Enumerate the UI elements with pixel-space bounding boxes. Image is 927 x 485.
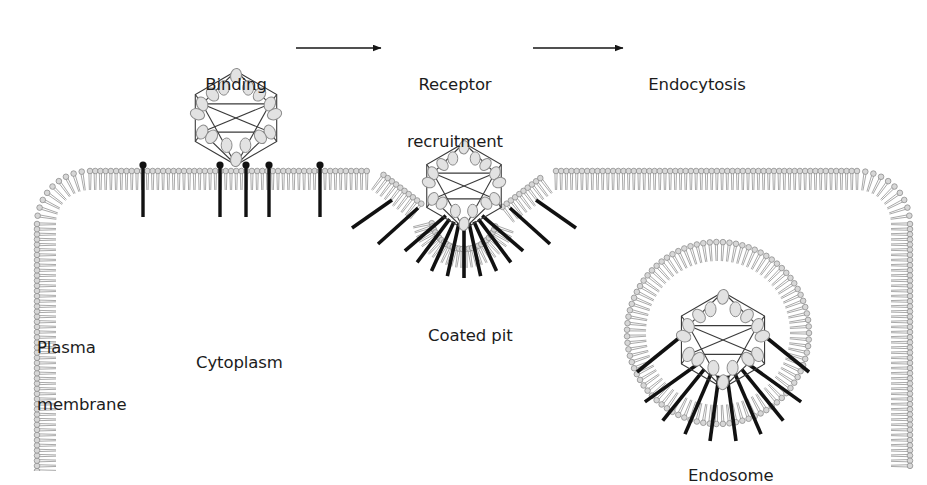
lipid-molecule — [891, 401, 913, 407]
lipid-molecule — [647, 168, 653, 190]
lipid-molecule — [286, 168, 292, 190]
receptor — [378, 208, 418, 244]
lipid-molecule — [890, 213, 912, 219]
lipid-molecule — [891, 334, 913, 340]
lipid-molecule — [625, 340, 647, 346]
lipid-molecule — [233, 168, 239, 190]
lipid-molecule — [891, 252, 913, 258]
lipid-molecule — [322, 168, 328, 190]
lipid-molecule — [761, 168, 767, 190]
lipid-molecule — [98, 168, 104, 190]
flow-step-binding-label: Binding — [205, 75, 267, 94]
lipid-molecule — [615, 168, 621, 190]
lipid-molecule — [673, 168, 679, 190]
lipid-molecule — [771, 168, 777, 190]
lipid-molecule — [839, 168, 845, 190]
lipid-molecule — [766, 168, 772, 190]
lipid-molecule — [333, 168, 339, 190]
lipid-molecule — [891, 319, 913, 325]
lipid-molecule — [750, 168, 756, 190]
lipid-molecule — [558, 168, 564, 190]
flow-step-endocytosis: Endocytosis — [648, 37, 746, 113]
lipid-molecule — [34, 252, 56, 258]
lipid-molecule — [327, 168, 333, 190]
lipid-molecule — [202, 168, 208, 190]
lipid-molecule — [254, 168, 260, 190]
lipid-molecule — [807, 168, 813, 190]
lipid-molecule — [34, 242, 56, 248]
lipid-molecule — [34, 262, 56, 268]
lipid-molecule — [625, 320, 647, 326]
lipid-molecule — [792, 168, 798, 190]
lipid-molecule — [343, 168, 349, 190]
lipid-molecule — [751, 250, 763, 270]
flow-step-receptor-recruitment-label2: recruitment — [407, 132, 503, 151]
label-coated-pit: Coated pit — [428, 288, 513, 364]
lipid-molecule — [891, 350, 913, 356]
flow-step-receptor-recruitment: Receptor recruitment — [407, 37, 503, 170]
lipid-molecule — [867, 171, 876, 192]
lipid-molecule — [891, 458, 913, 464]
receptor — [352, 200, 392, 228]
lipid-molecule — [34, 237, 56, 243]
lipid-molecule — [186, 168, 192, 190]
lipid-molecule — [626, 168, 632, 190]
lipid-molecule — [891, 257, 913, 263]
lipid-molecule — [354, 168, 360, 190]
lipid-molecule — [789, 343, 811, 349]
label-plasma-membrane-line1: Plasma — [37, 338, 126, 357]
lipid-molecule — [823, 168, 829, 190]
lipid-molecule — [891, 365, 913, 371]
lipid-molecule — [891, 360, 913, 366]
lipid-molecule — [213, 168, 219, 190]
lipid-molecule — [34, 231, 56, 237]
lipid-molecule — [833, 168, 839, 190]
lipid-molecule — [720, 239, 726, 261]
lipid-molecule — [891, 386, 913, 392]
lipid-molecule — [600, 168, 606, 190]
lipid-molecule — [781, 286, 801, 299]
lipid-molecule — [891, 453, 913, 459]
lipid-molecule — [34, 278, 56, 284]
lipid-molecule — [764, 261, 780, 279]
lipid-molecule — [709, 168, 715, 190]
lipid-molecule — [312, 168, 318, 190]
receptor — [536, 200, 576, 228]
lipid-molecule — [301, 168, 307, 190]
lipid-molecule — [891, 396, 913, 402]
lipid-molecule — [34, 268, 56, 274]
lipid-molecule — [124, 168, 130, 190]
lipid-molecule — [270, 168, 276, 190]
lipid-molecule — [891, 304, 913, 310]
lipid-molecule — [34, 448, 56, 454]
lipid-molecule — [849, 168, 855, 190]
label-endosome-line1: Endosome — [688, 466, 774, 485]
lipid-molecule — [891, 417, 913, 423]
lipid-molecule — [34, 453, 56, 459]
lipid-molecule — [260, 168, 266, 190]
lipid-molecule — [223, 168, 229, 190]
lipid-molecule — [781, 367, 801, 380]
lipid-molecule — [891, 427, 913, 433]
lipid-molecule — [768, 265, 785, 282]
lipid-molecule — [249, 168, 255, 190]
lipid-molecule — [113, 168, 119, 190]
lipid-molecule — [818, 168, 824, 190]
lipid-molecule — [34, 273, 56, 279]
lipid-molecule — [207, 168, 213, 190]
lipid-molecule — [891, 273, 913, 279]
lipid-molecule — [683, 168, 689, 190]
lipid-molecule — [34, 437, 56, 443]
lipid-molecule — [891, 293, 913, 299]
lipid-molecule — [813, 168, 819, 190]
lipid-molecule — [891, 370, 913, 376]
lipid-molecule — [624, 327, 646, 333]
lipid-molecule — [719, 168, 725, 190]
lipid-molecule — [862, 169, 868, 191]
lipid-molecule — [645, 273, 663, 288]
lipid-molecule — [891, 262, 913, 268]
lipid-molecule — [569, 168, 575, 190]
lipid-molecule — [34, 221, 56, 227]
lipid-molecule — [624, 333, 646, 339]
flow-step-binding: Binding — [205, 37, 267, 113]
